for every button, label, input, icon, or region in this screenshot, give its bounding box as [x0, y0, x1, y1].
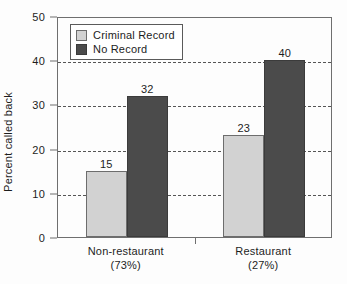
legend-swatch-icon-no-record — [76, 44, 87, 55]
y-axis: Percent called back 01020304050 — [0, 0, 57, 284]
y-tick-label-40: 40 — [32, 55, 45, 67]
legend-swatch-icon-criminal-record — [76, 30, 87, 41]
y-tick-mark-0 — [50, 238, 57, 239]
legend-label-criminal-record: Criminal Record — [93, 29, 175, 41]
y-tick-label-50: 50 — [32, 11, 45, 23]
legend-item-no-record: No Record — [76, 42, 175, 56]
y-tick-mark-40 — [50, 61, 57, 62]
bar-restaurant-no-record: 40 — [264, 60, 305, 237]
bar-value-label: 23 — [237, 122, 250, 134]
x-axis-group-label-non-restaurant: Non-restaurant(73%) — [88, 244, 164, 272]
x-group-sublabel-text: (27%) — [235, 258, 291, 272]
bar-non-restaurant-no-record: 32 — [127, 96, 168, 237]
y-tick-label-0: 0 — [39, 232, 45, 244]
bar-value-label: 40 — [278, 47, 291, 59]
bar-restaurant-criminal-record: 23 — [223, 135, 264, 237]
x-group-label-text: Non-restaurant — [88, 245, 164, 257]
x-axis-group-separator-tick — [195, 238, 196, 244]
y-tick-mark-10 — [50, 193, 57, 194]
y-tick-label-10: 10 — [32, 188, 45, 200]
bar-chart-figure: Percent called back 01020304050 15322340… — [0, 0, 347, 284]
y-tick-mark-20 — [50, 149, 57, 150]
x-group-label-text: Restaurant — [235, 245, 291, 257]
bar-value-label: 15 — [100, 158, 113, 170]
legend-item-criminal-record: Criminal Record — [76, 28, 175, 42]
chart-legend: Criminal Record No Record — [70, 24, 183, 60]
x-group-sublabel-text: (73%) — [88, 258, 164, 272]
x-axis-group-label-restaurant: Restaurant(27%) — [235, 244, 291, 272]
y-tick-mark-50 — [50, 17, 57, 18]
bar-value-label: 32 — [141, 83, 154, 95]
y-axis-title: Percent called back — [2, 67, 14, 217]
y-tick-label-30: 30 — [32, 99, 45, 111]
legend-label-no-record: No Record — [93, 43, 147, 55]
y-tick-mark-30 — [50, 105, 57, 106]
y-axis-title-text: Percent called back — [2, 67, 14, 217]
bar-non-restaurant-criminal-record: 15 — [86, 171, 127, 237]
y-tick-label-20: 20 — [32, 144, 45, 156]
